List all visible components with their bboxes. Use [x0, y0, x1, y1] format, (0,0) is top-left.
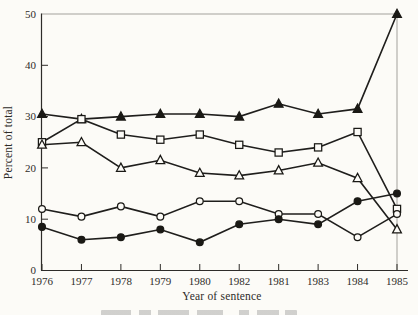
- chart-frame: [41, 14, 408, 271]
- filled-triangle-series-marker: [393, 9, 402, 17]
- x-tick-label: 1984: [347, 275, 370, 287]
- open-square-series-marker: [196, 131, 203, 138]
- filled-triangle-series-marker: [38, 109, 47, 117]
- open-square-series-marker: [78, 116, 85, 123]
- open-circle-series-marker: [39, 206, 46, 213]
- filled-triangle-series-marker: [353, 104, 362, 112]
- x-tick-label: 1978: [110, 275, 133, 287]
- y-tick-label: 50: [25, 8, 37, 20]
- open-square-series-marker: [117, 131, 124, 138]
- x-tick-label: 1980: [189, 275, 212, 287]
- x-tick-label: 1985: [386, 275, 409, 287]
- x-tick-label: 1982: [228, 275, 250, 287]
- x-tick-label: 1979: [149, 275, 172, 287]
- open-square-series-marker: [275, 149, 282, 156]
- filled-circle-series-marker: [315, 221, 322, 228]
- open-circle-series-line: [42, 201, 397, 237]
- filled-circle-series-marker: [275, 216, 282, 223]
- open-square-series-line: [42, 119, 397, 209]
- open-circle-series-marker: [354, 234, 361, 241]
- filled-circle-series-marker: [236, 221, 243, 228]
- y-tick-label: 40: [25, 59, 37, 71]
- open-circle-series-marker: [196, 198, 203, 205]
- open-circle-series-marker: [236, 198, 243, 205]
- line-chart: 0102030405019761977197819791980198219811…: [0, 0, 418, 315]
- open-square-series-marker: [315, 144, 322, 151]
- open-triangle-series-marker: [314, 158, 323, 166]
- x-tick-label: 1983: [307, 275, 330, 287]
- filled-circle-series-marker: [117, 234, 124, 241]
- x-tick-label: 1976: [31, 275, 54, 287]
- open-circle-series-marker: [117, 203, 124, 210]
- x-tick-label: 1981: [268, 275, 290, 287]
- open-square-series-marker: [236, 141, 243, 148]
- open-triangle-series-line: [42, 142, 397, 229]
- open-circle-series-marker: [315, 211, 322, 218]
- open-square-series-marker: [157, 136, 164, 143]
- x-tick-label: 1977: [70, 275, 93, 287]
- y-tick-label: 20: [25, 162, 37, 174]
- open-triangle-series-marker: [156, 155, 165, 163]
- filled-circle-series-marker: [78, 236, 85, 243]
- filled-circle-series-marker: [196, 239, 203, 246]
- filled-circle-series-marker: [157, 226, 164, 233]
- y-axis-title: Percent of total: [2, 106, 14, 179]
- axis-tick-labels: 0102030405019761977197819791980198219811…: [25, 8, 409, 287]
- chart-series: [38, 9, 402, 245]
- open-circle-series-marker: [394, 211, 401, 218]
- filled-triangle-series-line: [42, 14, 397, 119]
- y-tick-label: 10: [25, 213, 37, 225]
- y-tick-label: 30: [25, 110, 37, 122]
- open-triangle-series-marker: [77, 137, 86, 145]
- x-axis-title: Year of sentence: [182, 290, 261, 302]
- open-circle-series-marker: [78, 213, 85, 220]
- filled-triangle-series-marker: [274, 99, 283, 107]
- open-circle-series-marker: [157, 213, 164, 220]
- open-square-series-marker: [354, 128, 361, 135]
- filled-circle-series-marker: [394, 190, 401, 197]
- filled-circle-series-marker: [354, 198, 361, 205]
- filled-circle-series-marker: [39, 223, 46, 230]
- line-chart-figure: 0102030405019761977197819791980198219811…: [0, 0, 418, 315]
- cropped-caption-remnant: [101, 310, 297, 315]
